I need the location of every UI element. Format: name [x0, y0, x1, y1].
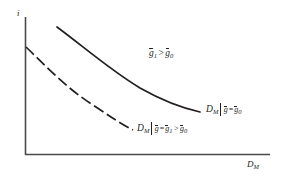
g-bar-0-subscript: 0 — [170, 52, 173, 59]
curve-dm-gbar0-solid — [57, 27, 200, 112]
g-bar-0-symbol: g — [165, 49, 170, 59]
solid-curve-label: DMg=g0 — [206, 103, 242, 116]
dashed-label-g-bar-0: g — [180, 125, 184, 133]
dashed-label-g-bar-1: g — [165, 125, 169, 133]
dashed-label-g-bar: g — [155, 125, 159, 133]
x-axis-label-subscript: M — [254, 163, 259, 170]
curve-dm-gbar1-dashed — [26, 47, 133, 130]
g-bar-1-symbol: g — [149, 49, 154, 59]
dashed-label-dm-subscript: M — [144, 127, 149, 134]
dashed-label-condition: g=g1>g0 — [155, 124, 188, 133]
solid-label-dm-subscript: M — [213, 108, 218, 115]
dashed-label-condition-bar — [151, 122, 152, 135]
dashed-label-greater-than: > — [173, 124, 181, 133]
solid-label-g-bar-0-subscript: 0 — [238, 108, 241, 115]
inequality-annotation: g1>g0 — [149, 49, 173, 60]
greater-than-sign: > — [157, 48, 165, 58]
solid-label-g-bar: g — [224, 106, 228, 114]
economics-money-demand-figure: i DM g1>g0 DMg=g0 DMg=g1>g0 — [0, 0, 283, 178]
dashed-label-dm-base: D — [137, 123, 144, 133]
solid-label-condition-bar — [220, 103, 221, 116]
dashed-label-g-bar-0-subscript: 0 — [184, 127, 187, 134]
solid-label-dm-base: D — [206, 104, 213, 114]
dashed-curve-label: DMg=g1>g0 — [137, 122, 187, 135]
solid-label-g-bar-0: g — [234, 106, 238, 114]
solid-label-condition: g=g0 — [224, 105, 242, 114]
chart-canvas — [0, 0, 283, 178]
x-axis-label: DM — [247, 160, 259, 171]
y-axis-label: i — [17, 9, 20, 18]
